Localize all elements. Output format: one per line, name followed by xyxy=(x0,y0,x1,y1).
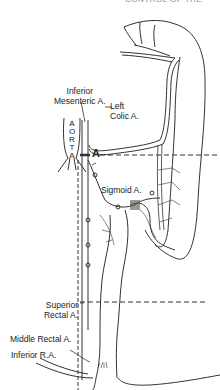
label-aorta: A O R T A xyxy=(68,120,76,160)
rectum-wall xyxy=(93,378,96,390)
label-sigmoid-artery: Sigmoid A. xyxy=(101,185,142,195)
label-inferior-rectal-artery: Inferior R.A. xyxy=(11,350,56,360)
label-inferior-mesenteric-artery: Inferior Mesenteric A. xyxy=(54,86,106,106)
aorta-outline-left xyxy=(58,118,68,172)
label-left-colic-artery: Left Colic A. xyxy=(110,101,139,121)
colon-arterial-diagram xyxy=(0,0,220,390)
pelvic-floor xyxy=(36,363,93,378)
ligation-marker-a: A xyxy=(92,147,100,159)
label-superior-rectal-artery: Superior Rectal A. xyxy=(40,300,78,320)
sigmoid-colon xyxy=(96,215,110,378)
label-middle-rectal-artery: Middle Rectal A. xyxy=(10,334,71,344)
sigmoid-artery xyxy=(88,160,160,207)
